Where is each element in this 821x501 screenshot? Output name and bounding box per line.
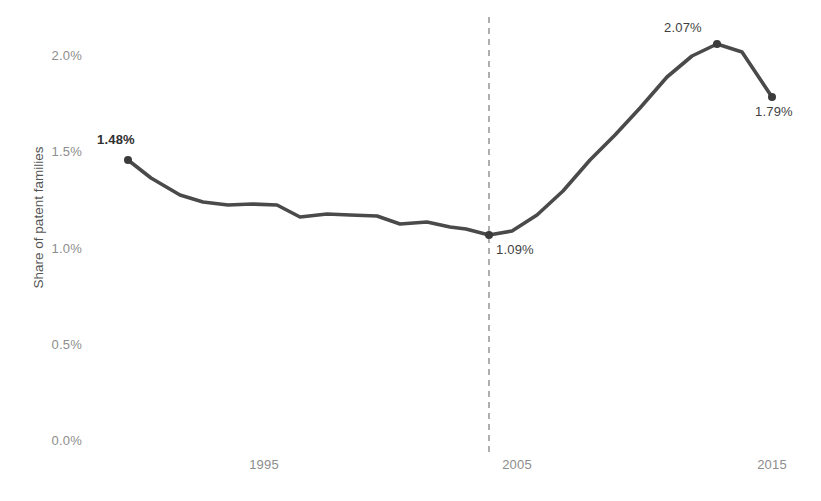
x-axis-tick-2015: 2015: [737, 457, 807, 472]
y-axis-tick-2: 2.0%: [22, 48, 82, 63]
data-point-marker: [485, 231, 493, 239]
x-axis-tick-1995: 1995: [229, 457, 299, 472]
data-series-group: [124, 40, 776, 239]
data-point-marker: [713, 40, 721, 48]
y-axis-label: Share of patent families: [31, 118, 46, 318]
y-axis-tick-0: 0.0%: [22, 433, 82, 448]
line-chart: 2.0% 1.5% 1.0% 0.5% 0.0% 1995 2005 2015 …: [0, 0, 821, 501]
annotation-start-value: 1.48%: [97, 132, 135, 147]
data-point-marker: [124, 156, 132, 164]
annotation-peak-value: 2.07%: [664, 20, 702, 35]
data-point-marker: [768, 93, 776, 101]
x-axis-tick-2005: 2005: [482, 457, 552, 472]
y-axis-tick-0_5: 0.5%: [22, 337, 82, 352]
chart-plot-area: [0, 0, 821, 501]
annotation-end-value: 1.79%: [755, 104, 793, 119]
annotation-reference-value: 1.09%: [496, 242, 534, 257]
series-line-share-of-patent-families: [128, 44, 772, 235]
